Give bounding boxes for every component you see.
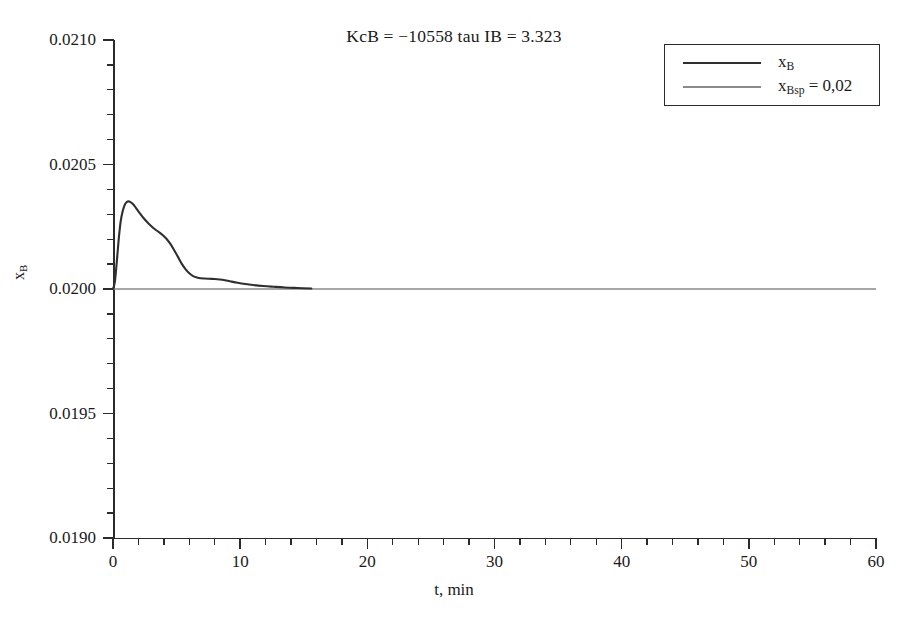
y-tick-major <box>103 288 114 290</box>
y-tick-minor <box>107 263 114 264</box>
y-tick-major <box>103 164 114 166</box>
x-tick-minor <box>392 538 393 545</box>
x-tick-minor <box>265 538 266 545</box>
x-tick-major <box>621 538 623 549</box>
x-tick-minor <box>138 538 139 545</box>
x-tick-label: 50 <box>719 553 779 570</box>
x-tick-minor <box>697 538 698 545</box>
y-tick-minor <box>107 214 114 215</box>
x-tick-minor <box>850 538 851 545</box>
x-tick-minor <box>468 538 469 545</box>
legend-label-xbsp: xBsp = 0,02 <box>778 76 852 97</box>
legend-item-xbsp: xBsp = 0,02 <box>665 74 881 100</box>
x-tick-label: 30 <box>465 553 525 570</box>
y-tick-label: 0.0210 <box>0 31 96 48</box>
y-tick-minor <box>107 488 114 489</box>
x-tick-minor <box>596 538 597 545</box>
series-line-xb <box>113 201 311 289</box>
y-tick-minor <box>107 463 114 464</box>
y-tick-minor <box>107 239 114 240</box>
x-tick-minor <box>672 538 673 545</box>
x-axis-title: t, min <box>0 580 908 600</box>
y-axis-title-sub: B <box>17 265 29 272</box>
y-tick-label: 0.0200 <box>0 280 96 297</box>
x-tick-minor <box>189 538 190 545</box>
y-tick-label: 0.0195 <box>0 405 96 422</box>
x-tick-minor <box>824 538 825 545</box>
x-tick-major <box>239 538 241 549</box>
chart-page: KcB = −10558 tau IB = 3.323 0.01900.0195… <box>0 0 908 618</box>
x-tick-major <box>875 538 877 549</box>
y-tick-minor <box>107 189 114 190</box>
y-tick-minor <box>107 139 114 140</box>
legend-item-xb: xB <box>665 50 881 76</box>
x-tick-label: 40 <box>592 553 652 570</box>
legend-label-xb-main: x <box>778 52 787 71</box>
x-tick-minor <box>316 538 317 545</box>
y-axis-title: xB <box>10 265 29 280</box>
y-tick-minor <box>107 438 114 439</box>
legend-swatch-xbsp <box>683 86 761 88</box>
x-tick-minor <box>570 538 571 545</box>
x-tick-major <box>112 538 114 549</box>
x-tick-label: 0 <box>83 553 143 570</box>
y-axis-title-main: x <box>10 272 27 280</box>
x-tick-minor <box>799 538 800 545</box>
x-tick-minor <box>290 538 291 545</box>
x-tick-label: 20 <box>337 553 397 570</box>
x-tick-minor <box>214 538 215 545</box>
y-tick-minor <box>107 363 114 364</box>
y-tick-minor <box>107 313 114 314</box>
y-tick-minor <box>107 388 114 389</box>
x-tick-minor <box>646 538 647 545</box>
x-tick-minor <box>774 538 775 545</box>
y-tick-minor <box>107 114 114 115</box>
x-tick-minor <box>723 538 724 545</box>
y-tick-minor <box>107 512 114 513</box>
x-tick-major <box>494 538 496 549</box>
y-tick-major <box>103 413 114 415</box>
x-tick-label: 10 <box>210 553 270 570</box>
legend-label-xbsp-sub: Bsp <box>787 84 805 97</box>
y-tick-label: 0.0190 <box>0 529 96 546</box>
y-tick-minor <box>107 89 114 90</box>
x-tick-minor <box>443 538 444 545</box>
x-tick-minor <box>163 538 164 545</box>
x-tick-major <box>367 538 369 549</box>
x-tick-minor <box>545 538 546 545</box>
y-tick-label: 0.0205 <box>0 156 96 173</box>
x-tick-minor <box>418 538 419 545</box>
x-tick-minor <box>341 538 342 545</box>
legend-label-xbsp-main: x <box>778 76 787 95</box>
y-tick-major <box>103 39 114 41</box>
y-tick-minor <box>107 338 114 339</box>
chart-legend: xB xBsp = 0,02 <box>664 44 880 106</box>
legend-label-xb-sub: B <box>787 60 795 73</box>
x-tick-label: 60 <box>846 553 906 570</box>
y-tick-minor <box>107 64 114 65</box>
legend-label-xbsp-suffix: = 0,02 <box>804 76 852 95</box>
x-tick-major <box>748 538 750 549</box>
legend-swatch-xb <box>683 62 761 64</box>
x-tick-minor <box>519 538 520 545</box>
legend-label-xb: xB <box>778 52 794 73</box>
